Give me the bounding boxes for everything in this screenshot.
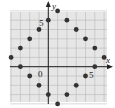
origin-label: 0 — [38, 69, 43, 79]
coordinate-graph: y x 5 5 0 — [0, 0, 115, 108]
data-point — [74, 83, 79, 88]
data-point — [74, 27, 79, 32]
data-point — [9, 55, 14, 60]
data-point — [65, 92, 70, 97]
data-point — [46, 18, 51, 23]
data-point — [83, 36, 88, 41]
data-point — [46, 92, 51, 97]
data-point — [92, 64, 97, 69]
x-tick-label-5: 5 — [89, 70, 94, 80]
x-axis-label: x — [105, 55, 110, 65]
data-point — [92, 46, 97, 51]
grid-background — [10, 12, 107, 102]
data-point — [83, 74, 88, 79]
data-point — [37, 83, 42, 88]
data-point — [18, 46, 23, 51]
data-point — [27, 74, 32, 79]
data-point — [65, 18, 70, 23]
y-axis-arrow-icon — [46, 1, 51, 7]
data-point — [27, 36, 32, 41]
data-point — [55, 102, 60, 107]
y-tick-label-5: 5 — [39, 18, 44, 28]
y-axis-label: y — [51, 1, 56, 11]
data-point — [18, 64, 23, 69]
